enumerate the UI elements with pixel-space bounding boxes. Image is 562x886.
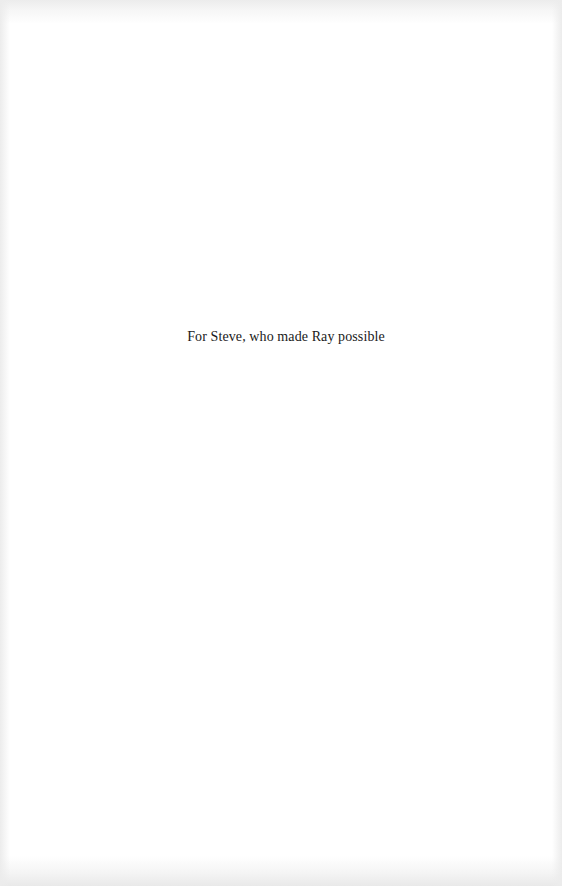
page-edge-right <box>552 0 562 886</box>
page-edge-left <box>0 0 10 886</box>
dedication-text: For Steve, who made Ray possible <box>0 329 562 345</box>
book-page: For Steve, who made Ray possible <box>0 0 562 886</box>
